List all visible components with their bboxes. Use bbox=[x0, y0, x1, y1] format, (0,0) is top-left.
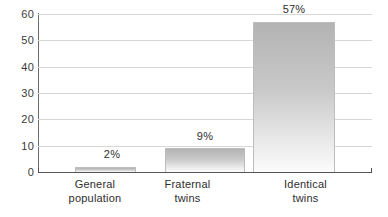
value-label-identical-twins: 57% bbox=[264, 3, 324, 15]
bar-identical-twins[interactable] bbox=[253, 22, 335, 172]
x-axis-line bbox=[38, 172, 372, 173]
category-label-line2: twins bbox=[140, 191, 235, 205]
bar-chart: 60 50 40 30 20 10 0 2% 9% 57% General po… bbox=[0, 0, 388, 217]
category-label-fraternal-twins: Fraternal twins bbox=[140, 177, 235, 205]
y-tick-label-50: 50 bbox=[2, 35, 34, 46]
category-label-general-population: General population bbox=[45, 177, 145, 205]
bar-fraternal-twins[interactable] bbox=[165, 148, 245, 172]
category-label-line2: population bbox=[45, 191, 145, 205]
y-tick-label-40: 40 bbox=[2, 62, 34, 73]
value-label-general-population: 2% bbox=[82, 148, 142, 160]
y-tick-label-10: 10 bbox=[2, 141, 34, 152]
category-label-line1: Fraternal bbox=[140, 177, 235, 191]
category-label-line2: twins bbox=[258, 191, 353, 205]
category-label-line1: General bbox=[45, 177, 145, 191]
y-tick-label-20: 20 bbox=[2, 114, 34, 125]
y-tick-label-30: 30 bbox=[2, 88, 34, 99]
y-tick-label-60: 60 bbox=[2, 9, 34, 20]
value-label-fraternal-twins: 9% bbox=[175, 130, 235, 142]
category-label-identical-twins: Identical twins bbox=[258, 177, 353, 205]
y-tick-label-0: 0 bbox=[2, 167, 34, 178]
bar-general-population[interactable] bbox=[75, 167, 136, 172]
category-label-line1: Identical bbox=[258, 177, 353, 191]
y-axis-tick-labels: 60 50 40 30 20 10 0 bbox=[0, 0, 34, 217]
